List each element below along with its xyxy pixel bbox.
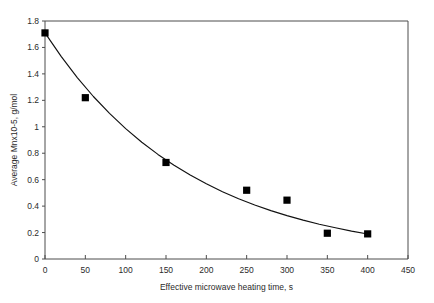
y-tick-label: 0.2 xyxy=(27,228,39,238)
y-tick-label: 1.8 xyxy=(27,16,39,26)
data-point-marker xyxy=(162,159,169,166)
data-point-marker xyxy=(324,230,331,237)
chart-container: 00.20.40.60.811.21.41.61.8 0501001502002… xyxy=(0,0,434,303)
x-tick-label: 200 xyxy=(199,265,213,275)
x-tick-label: 0 xyxy=(43,265,48,275)
y-tick-label: 1.4 xyxy=(27,69,39,79)
x-tick-label: 300 xyxy=(280,265,294,275)
y-tick-label: 0.4 xyxy=(27,201,39,211)
chart-background xyxy=(0,0,434,303)
x-tick-label: 150 xyxy=(159,265,173,275)
y-tick-label: 0.6 xyxy=(27,175,39,185)
y-tick-label: 0.8 xyxy=(27,148,39,158)
data-point-marker xyxy=(364,230,371,237)
x-tick-label: 400 xyxy=(361,265,375,275)
data-point-marker xyxy=(82,94,89,101)
x-tick-label: 450 xyxy=(401,265,415,275)
scatter-chart: 00.20.40.60.811.21.41.61.8 0501001502002… xyxy=(0,0,434,303)
x-tick-label: 350 xyxy=(320,265,334,275)
data-point-marker xyxy=(243,187,250,194)
y-tick-label: 1 xyxy=(34,122,39,132)
y-tick-label: 1.2 xyxy=(27,95,39,105)
x-tick-label: 50 xyxy=(81,265,91,275)
x-axis-title: Effective microwave heating time, s xyxy=(160,282,293,292)
y-axis-title: Average Mnx10-5, g/mol xyxy=(9,94,19,187)
y-tick-label: 0 xyxy=(34,254,39,264)
y-tick-label: 1.6 xyxy=(27,42,39,52)
data-point-marker xyxy=(41,29,48,36)
x-tick-label: 250 xyxy=(240,265,254,275)
x-tick-label: 100 xyxy=(119,265,133,275)
data-point-marker xyxy=(283,197,290,204)
